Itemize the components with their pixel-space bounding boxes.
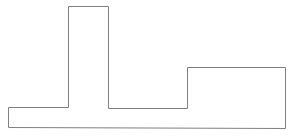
diagram-canvas — [0, 0, 289, 140]
outline-polygon — [9, 7, 286, 129]
